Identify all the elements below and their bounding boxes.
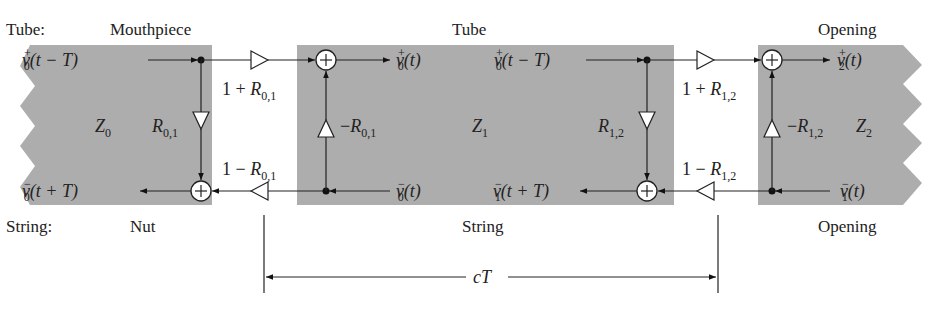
gain-label-j01-backward: 1 − R0,1 xyxy=(222,159,276,183)
string-row-label: String: xyxy=(6,217,52,236)
signal-mid-bottom-in: v−0(t) xyxy=(396,177,421,204)
signal-left-bottom-out: v−0(t + T) xyxy=(22,177,78,204)
opening-bottom-label: Opening xyxy=(818,217,877,236)
signal-right-bottom-in: v−1(t) xyxy=(840,177,865,204)
gain-label-j01-forward: 1 + R0,1 xyxy=(222,79,276,103)
nut-label: Nut xyxy=(130,217,156,236)
gain-label-j12-forward: 1 + R1,2 xyxy=(682,79,736,103)
signal-mid-top-out: v+0(t) xyxy=(396,46,421,73)
gain-label-j12-backward: 1 − R1,2 xyxy=(682,159,736,183)
gain-triangle-j01-forward xyxy=(251,51,268,69)
string-label: String xyxy=(462,217,504,236)
dimension-label-cT: cT xyxy=(473,267,493,287)
tube-row-label: Tube: xyxy=(6,20,45,39)
signal-mid-bottom-out: v−1(t + T) xyxy=(493,177,549,204)
signal-mid-top-in: v+0(t − T) xyxy=(494,46,550,73)
waveguide-scattering-diagram: Tube: Mouthpiece Tube Opening String: Nu… xyxy=(0,0,944,315)
signal-left-top-in: v+0(t − T) xyxy=(22,46,78,73)
signal-right-top-out: v+2(t) xyxy=(837,46,862,73)
tube-label: Tube xyxy=(452,20,486,39)
gain-triangle-j12-backward xyxy=(697,182,714,200)
gain-triangle-j12-forward xyxy=(697,51,714,69)
opening-top-label: Opening xyxy=(818,20,877,39)
mouthpiece-label: Mouthpiece xyxy=(110,20,191,39)
gain-triangle-j01-backward xyxy=(251,182,268,200)
